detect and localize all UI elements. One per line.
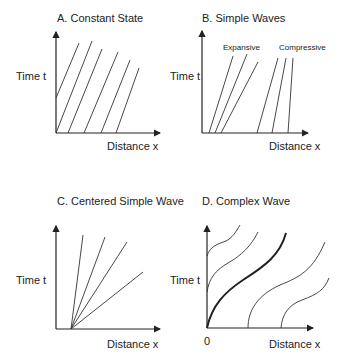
wave-diagram: A. Constant State Time t Distance x B. S… (0, 0, 345, 364)
y-axis-label: Time t (170, 70, 200, 82)
y-axis-label: Time t (170, 274, 200, 286)
panel-b-simple-waves: B. Simple Waves Time t Distance x Expans… (170, 12, 326, 152)
panel-c-centered-simple-wave: C. Centered Simple Wave Time t Distance … (16, 195, 184, 350)
expansive-label: Expansive (223, 43, 260, 52)
panel-a-constant-state: A. Constant State Time t Distance x (16, 12, 160, 152)
panel-a-title: A. Constant State (57, 12, 143, 24)
characteristic-lines (56, 41, 139, 133)
panel-d-title: D. Complex Wave (202, 195, 290, 207)
y-axis-label: Time t (16, 70, 46, 82)
x-axis-label: Distance x (107, 140, 159, 152)
x-axis-label: Distance x (269, 140, 321, 152)
x-axis-label: Distance x (107, 338, 159, 350)
curved-characteristics (207, 225, 329, 328)
panel-c-title: C. Centered Simple Wave (57, 195, 184, 207)
y-axis-label: Time t (16, 274, 46, 286)
compressive-label: Compressive (279, 43, 326, 52)
x-axis-label: Distance x (269, 338, 321, 350)
panel-d-complex-wave: D. Complex Wave Time t Distance x 0 (170, 195, 329, 350)
panel-b-title: B. Simple Waves (202, 12, 286, 24)
origin-label: 0 (204, 335, 210, 347)
compressive-lines (257, 58, 293, 133)
expansive-lines (209, 54, 258, 133)
fan-lines (71, 235, 143, 329)
